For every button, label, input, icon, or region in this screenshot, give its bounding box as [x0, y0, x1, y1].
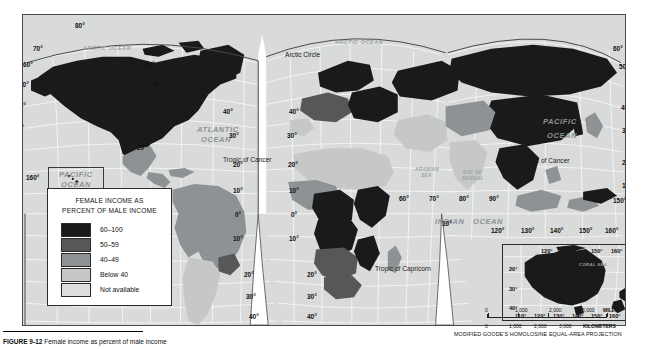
degree-label: 30°: [509, 286, 517, 292]
coral-sea-label: CORAL SEA: [579, 262, 607, 267]
degree-label: 40°: [22, 102, 26, 109]
degree-label: 10°: [233, 187, 243, 194]
degree-label: 20°: [244, 271, 254, 278]
figure-container: ARCTIC OCEAN ARCTIC OCEAN ATLANTIC OCEAN…: [0, 0, 648, 349]
map-legend: FEMALE INCOME AS PERCENT OF MALE INCOME …: [47, 188, 172, 306]
degree-label: 20°: [233, 161, 243, 168]
legend-class-list: 60–10050–5940–49Below 40Not available: [61, 222, 171, 297]
figure-caption-label: FIGURE 9-12: [3, 338, 42, 345]
degree-label: 20°: [137, 144, 147, 151]
scale-km-unit: KILOMETERS: [583, 323, 616, 329]
degree-label: 20°: [307, 271, 317, 278]
degree-label: 10°: [22, 173, 23, 180]
degree-label: 40°: [22, 293, 23, 300]
legend-label: Below 40: [100, 271, 128, 278]
degree-label: 60°: [145, 61, 155, 68]
legend-title-line2: PERCENT OF MALE INCOME: [48, 206, 171, 216]
degree-label: 20°: [622, 159, 626, 166]
degree-label: 160°: [605, 227, 618, 234]
degree-label: 10°: [289, 235, 299, 242]
legend-row: 40–49: [61, 252, 171, 267]
degree-label: 30°: [307, 293, 317, 300]
degree-label: 50°: [619, 63, 626, 70]
scale-miles: 0 1,000 2,000 3,000 MILES: [479, 308, 631, 320]
degree-label: 30°: [287, 132, 297, 139]
degree-label: 150°: [591, 248, 603, 254]
degree-label: 50°: [153, 81, 163, 88]
degree-label: 40°: [289, 108, 299, 115]
legend-title-line1: FEMALE INCOME AS: [48, 196, 171, 206]
scale-miles-unit: MILES: [603, 307, 618, 313]
degree-label: 160°: [611, 248, 623, 254]
degree-label: 70°: [33, 45, 43, 52]
degree-label: 40°: [621, 104, 626, 111]
degree-label: 10°: [289, 187, 299, 194]
figure-caption-text: Female income as percent of male income: [44, 338, 166, 345]
degree-label: 10°: [442, 220, 452, 227]
scale-miles-bar: [487, 314, 607, 318]
degree-label: 120°: [491, 227, 504, 234]
degree-label: 120°: [541, 248, 553, 254]
scale-miles-tick-3: 3,000: [582, 307, 595, 313]
degree-label: 60°: [23, 61, 33, 68]
legend-row: 50–59: [61, 237, 171, 252]
degree-label: 90°: [489, 195, 499, 202]
legend-label: 50–59: [100, 241, 119, 248]
degree-label: 50°: [22, 315, 23, 322]
degree-label: 40°: [249, 313, 259, 320]
legend-label: 60–100: [100, 226, 123, 233]
degree-label: 80°: [459, 195, 469, 202]
legend-swatch: [61, 253, 91, 267]
legend-swatch: [61, 223, 91, 237]
caption-rule: [3, 331, 143, 332]
scale-km-tick-3: 3,000: [559, 323, 572, 329]
scale-km-tick-1: 1,000: [509, 323, 522, 329]
degree-label: 20°: [288, 161, 298, 168]
degree-label: 60°: [613, 45, 623, 52]
legend-swatch: [61, 238, 91, 252]
degree-label: 60°: [399, 195, 409, 202]
degree-label: 130°: [521, 227, 534, 234]
degree-label: 30°: [622, 127, 626, 134]
degree-label: 10°: [233, 235, 243, 242]
degree-label: 20°: [22, 145, 23, 152]
scale-miles-tick-2: 2,000: [549, 307, 562, 313]
projection-note: MODIFIED GOODE'S HOMOLOSINE EQUAL-AREA P…: [454, 331, 622, 337]
degree-label: 150°: [613, 197, 626, 204]
legend-swatch: [61, 283, 91, 297]
legend-row: 60–100: [61, 222, 171, 237]
legend-title: FEMALE INCOME AS PERCENT OF MALE INCOME: [48, 189, 171, 216]
legend-label: 40–49: [100, 256, 119, 263]
degree-label: 140°: [550, 227, 563, 234]
degree-label: 30°: [246, 293, 256, 300]
degree-label: 30°: [22, 271, 23, 278]
degree-label: 40°: [307, 313, 317, 320]
degree-label: 0°: [291, 211, 297, 218]
scale-km-tick-2: 2,000: [534, 323, 547, 329]
degree-label: 20°: [509, 266, 517, 272]
degree-label: 30°: [22, 124, 24, 131]
legend-swatch: [61, 268, 91, 282]
figure-caption: FIGURE 9-12 Female income as percent of …: [3, 338, 167, 345]
scale-miles-tick-1: 1,000: [515, 307, 528, 313]
legend-row: Not available: [61, 282, 171, 297]
scale-km-tick-0: 0: [485, 323, 488, 329]
legend-label: Not available: [100, 286, 139, 293]
degree-label: 30°: [229, 132, 239, 139]
legend-row: Below 40: [61, 267, 171, 282]
degree-label: 40°: [223, 108, 233, 115]
degree-label: 20°: [22, 246, 23, 253]
degree-label: 10°: [622, 182, 626, 189]
degree-label: 70°: [429, 195, 439, 202]
degree-label: 80°: [75, 22, 85, 29]
degree-label: 10°: [22, 222, 23, 229]
degree-label: 50°: [22, 81, 29, 88]
degree-label: 0°: [235, 211, 241, 218]
degree-label: 150°: [579, 227, 592, 234]
degree-label: 160°: [26, 174, 39, 181]
